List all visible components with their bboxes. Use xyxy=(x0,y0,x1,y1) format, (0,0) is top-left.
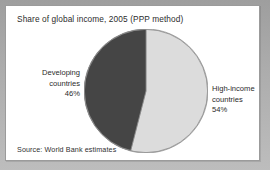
pie-chart xyxy=(84,29,208,153)
pie-label-developing: Developing countries 46% xyxy=(28,68,80,100)
pie-label-high-income-percent: 54% xyxy=(212,105,260,116)
pie-label-developing-line2: countries xyxy=(49,79,80,88)
pie-label-developing-line1: Developing xyxy=(42,68,80,77)
chart-card: Share of global income, 2005 (PPP method… xyxy=(5,5,260,161)
pie-label-high-income-line1: High-income xyxy=(212,84,255,93)
figure-root: Share of global income, 2005 (PPP method… xyxy=(0,0,270,170)
pie-label-high-income: High-income countries 54% xyxy=(212,84,260,116)
pie-label-developing-percent: 46% xyxy=(28,89,80,100)
pie-label-high-income-line2: countries xyxy=(212,95,243,104)
pie-chart-svg xyxy=(84,29,208,153)
source-note: Source: World Bank estimates xyxy=(17,145,116,154)
chart-title: Share of global income, 2005 (PPP method… xyxy=(17,14,183,24)
